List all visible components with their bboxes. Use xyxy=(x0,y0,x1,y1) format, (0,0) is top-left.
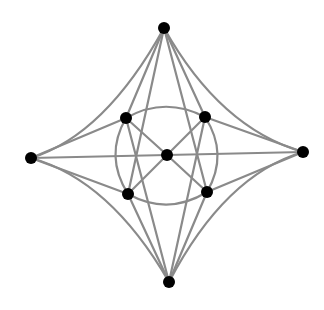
edge-bottom-inner-ur xyxy=(169,117,205,282)
node-top xyxy=(158,22,170,34)
edge-center-inner-lr xyxy=(167,155,207,192)
edge-top-left xyxy=(31,28,164,158)
nodes-layer xyxy=(25,22,309,288)
edge-center-inner-ll xyxy=(128,155,167,194)
edge-inner-ll-inner-lr xyxy=(128,192,207,205)
edge-center-inner-ul xyxy=(126,118,167,155)
edge-left-inner-ul xyxy=(31,118,126,158)
node-inner-lr xyxy=(201,186,213,198)
edge-left-inner-ll xyxy=(31,158,128,194)
edge-top-inner-ll xyxy=(128,28,164,194)
node-right xyxy=(297,146,309,158)
edge-inner-ul-inner-ur xyxy=(126,107,205,118)
node-bottom xyxy=(163,276,175,288)
graph-diagram xyxy=(0,0,324,310)
edge-center-inner-ur xyxy=(167,117,205,155)
edge-bottom-right xyxy=(169,152,303,282)
edge-bottom-left xyxy=(31,158,169,282)
edge-bottom-inner-ul xyxy=(126,118,169,282)
node-inner-ur xyxy=(199,111,211,123)
edge-right-inner-lr xyxy=(207,152,303,192)
edge-top-inner-ul xyxy=(126,28,164,118)
edge-top-right xyxy=(164,28,303,152)
edge-right-inner-ur xyxy=(205,117,303,152)
node-left xyxy=(25,152,37,164)
node-center xyxy=(161,149,173,161)
node-inner-ul xyxy=(120,112,132,124)
node-inner-ll xyxy=(122,188,134,200)
edge-bottom-inner-lr xyxy=(169,192,207,282)
